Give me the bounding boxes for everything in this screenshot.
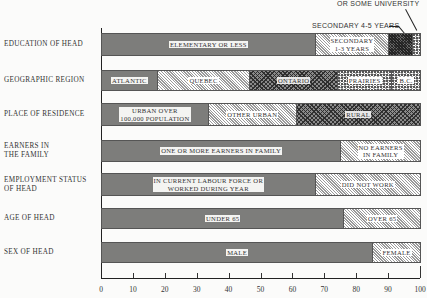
bar-row: ONE OR MORE EARNERS IN FAMILYNO EARNERSI… (101, 140, 420, 162)
segment-label: UNDER 65 (205, 215, 240, 223)
row-label-line: SEX OF HEAD (4, 248, 54, 257)
row-label-line: GEOGRAPHIC REGION (4, 76, 84, 85)
segment-label: B.C. (398, 77, 413, 85)
segment-label-line: OVER 65 (368, 215, 396, 223)
segment-label-line: OTHER URBAN (227, 111, 277, 119)
segment-label: SECONDARY1-3 YEARS (330, 37, 375, 52)
segment-label-line: B.C. (399, 77, 412, 85)
row-label: SEX OF HEAD (4, 248, 54, 257)
bar-row: ATLANTICQUEBECONTARIOPRAIRIESB.C. (101, 70, 420, 91)
x-tick-label: 40 (219, 285, 239, 294)
x-tick-label: 0 (91, 285, 111, 294)
bar-row: MALEFEMALE (101, 242, 420, 263)
leader-arrow-university (405, 9, 417, 31)
segment-label-line: WORKED DURING YEAR (154, 185, 264, 193)
x-tick-label: 80 (346, 285, 366, 294)
bar-row: URBAN OVER100,000 POPULATIONOTHER URBANR… (101, 103, 420, 126)
segment-label: ONTARIO (277, 77, 310, 85)
row-label-line: PLACE OF RESIDENCE (4, 110, 84, 119)
row-label-line: EARNERS IN (4, 142, 49, 151)
x-tick-mark (388, 273, 389, 278)
bar-segment: ONTARIO (249, 70, 338, 91)
annotation-secondary-4-5: SECONDARY 4-5 YEARS (312, 22, 399, 29)
row-label-line: AGE OF HEAD (4, 214, 55, 223)
segment-label-line: ELEMENTARY OR LESS (170, 41, 247, 49)
segment-label: ATLANTIC (111, 77, 148, 85)
bar-segment (388, 33, 413, 56)
segment-label: NO EARNERSIN FAMILY (358, 144, 404, 159)
segment-label-line: ONE OR MORE EARNERS IN FAMILY (161, 147, 281, 155)
bar-segment: IN CURRENT LABOUR FORCE ORWORKED DURING … (101, 173, 316, 196)
row-label-line: OF HEAD (4, 185, 86, 194)
row-label-line: EDUCATION OF HEAD (4, 40, 83, 49)
segment-label-line: IN CURRENT LABOUR FORCE OR (154, 177, 264, 185)
bar-segment: NO EARNERSIN FAMILY (340, 140, 421, 162)
x-tick-mark (165, 273, 166, 278)
bar-segment: URBAN OVER100,000 POPULATION (101, 103, 209, 126)
bar-row: IN CURRENT LABOUR FORCE ORWORKED DURING … (101, 173, 420, 196)
bar-row: ELEMENTARY OR LESSSECONDARY1-3 YEARS (101, 33, 420, 56)
segment-label-line: SECONDARY (331, 37, 374, 45)
bar-segment: SECONDARY1-3 YEARS (315, 33, 389, 56)
bar-row: UNDER 65OVER 65 (101, 208, 420, 229)
x-tick-mark (197, 273, 198, 278)
row-label: EMPLOYMENT STATUSOF HEAD (4, 176, 86, 194)
segment-label: OVER 65 (367, 215, 397, 223)
bar-segment (412, 33, 421, 56)
segment-label-line: RURAL (346, 111, 370, 119)
segment-label: IN CURRENT LABOUR FORCE ORWORKED DURING … (153, 177, 265, 192)
segment-label: PRAIRIES (348, 77, 382, 85)
segment-label: QUEBEC (188, 77, 218, 85)
x-tick-mark (229, 273, 230, 278)
x-tick-label: 90 (378, 285, 398, 294)
segment-label: ONE OR MORE EARNERS IN FAMILY (160, 147, 282, 155)
x-tick-label: 20 (155, 285, 175, 294)
bar-segment: OVER 65 (343, 208, 421, 229)
x-tick-mark (261, 273, 262, 278)
segment-label-line: DID NOT WORK (342, 181, 394, 189)
x-tick-label: 60 (282, 285, 302, 294)
row-label: EARNERS INTHE FAMILY (4, 142, 49, 160)
segment-label-line: PRAIRIES (349, 77, 381, 85)
bar-segment: MALE (101, 242, 373, 263)
bar-segment: PRAIRIES (337, 70, 392, 91)
row-label: GEOGRAPHIC REGION (4, 76, 84, 85)
x-tick-label: 30 (187, 285, 207, 294)
segment-label-line: NO EARNERS (359, 144, 403, 152)
segment-label: RURAL (345, 111, 371, 119)
bar-segment: ATLANTIC (101, 70, 158, 91)
bar-segment: FEMALE (372, 242, 421, 263)
x-tick-label: 70 (314, 285, 334, 294)
row-label: EDUCATION OF HEAD (4, 40, 83, 49)
x-tick-mark (324, 273, 325, 278)
x-tick-mark (292, 273, 293, 278)
bar-segment: ELEMENTARY OR LESS (101, 33, 316, 56)
row-label: PLACE OF RESIDENCE (4, 110, 84, 119)
x-tick-label: 10 (123, 285, 143, 294)
x-tick-label: 50 (251, 285, 271, 294)
segment-label-line: ATLANTIC (112, 77, 147, 85)
x-axis-line (101, 278, 420, 279)
annotation-university: OR SOME UNIVERSITY (337, 0, 419, 7)
segment-label-line: 1-3 YEARS (331, 45, 374, 53)
segment-label-line: 100,000 POPULATION (120, 115, 189, 123)
bar-segment: DID NOT WORK (315, 173, 421, 196)
segment-label: DID NOT WORK (341, 181, 395, 189)
bar-segment: UNDER 65 (101, 208, 344, 229)
segment-label-line: MALE (227, 249, 247, 257)
bar-segment: ONE OR MORE EARNERS IN FAMILY (101, 140, 341, 162)
segment-label-line: FEMALE (382, 249, 410, 257)
row-label-line: THE FAMILY (4, 151, 49, 160)
bar-segment: B.C. (391, 70, 421, 91)
row-label-line: EMPLOYMENT STATUS (4, 176, 86, 185)
x-tick-mark (420, 266, 421, 278)
bar-segment: RURAL (296, 103, 421, 126)
x-tick-mark (133, 273, 134, 278)
segment-label-line: URBAN OVER (120, 107, 189, 115)
segment-label-line: QUEBEC (189, 77, 217, 85)
row-label: AGE OF HEAD (4, 214, 55, 223)
segment-label: URBAN OVER100,000 POPULATION (119, 107, 190, 122)
segment-label: OTHER URBAN (226, 111, 278, 119)
bar-segment: QUEBEC (157, 70, 251, 91)
segment-label: FEMALE (381, 249, 411, 257)
